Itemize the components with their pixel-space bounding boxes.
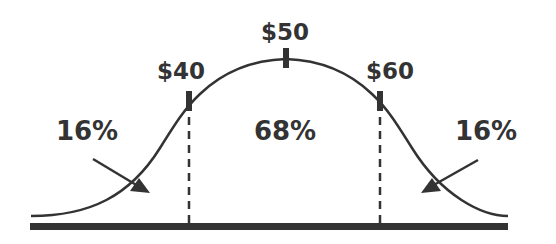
right-tail-arrow-icon <box>421 160 478 193</box>
upper-price-label: $60 <box>366 58 414 84</box>
upper-tick-mark <box>377 91 383 111</box>
bell-curve-diagram: $40 $50 $60 16% 68% 16% <box>0 0 556 244</box>
left-tail-arrow-icon <box>93 159 150 193</box>
center-percent-label: 68% <box>254 116 316 146</box>
baseline-axis <box>30 223 508 230</box>
right-tail-percent-label: 16% <box>455 116 517 146</box>
mean-tick-mark <box>283 48 289 68</box>
lower-price-label: $40 <box>157 58 205 84</box>
left-tail-percent-label: 16% <box>56 116 118 146</box>
lower-tick-mark <box>186 91 192 111</box>
mean-price-label: $50 <box>261 19 309 45</box>
